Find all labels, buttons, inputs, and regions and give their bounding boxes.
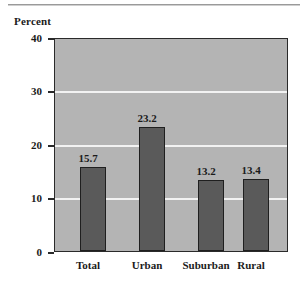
bar-total[interactable] [80, 167, 106, 251]
y-tick-label-0: 0 [0, 246, 42, 258]
y-tick-label-30: 30 [0, 85, 42, 97]
bar-rural[interactable] [243, 179, 269, 251]
y-tick-label-20: 20 [0, 139, 42, 151]
value-label-rural: 13.4 [225, 164, 277, 176]
gridline-20 [55, 145, 287, 147]
bar-urban[interactable] [139, 127, 165, 251]
x-axis-label-urban: Urban [121, 259, 173, 271]
bar-chart-figure: Percent 40 30 20 10 0 15.7 23.2 13.2 13.… [0, 0, 307, 290]
value-label-urban: 23.2 [121, 112, 173, 124]
top-divider-rule-shadow [8, 5, 300, 6]
value-label-total: 15.7 [62, 152, 114, 164]
x-axis-label-rural: Rural [225, 259, 277, 271]
y-tick-mark-0 [48, 252, 54, 254]
gridline-30 [55, 91, 287, 93]
plot-area [54, 38, 288, 252]
y-tick-label-10: 10 [0, 192, 42, 204]
bar-suburban[interactable] [198, 180, 224, 251]
y-tick-label-40: 40 [0, 32, 42, 44]
x-axis-label-total: Total [62, 259, 114, 271]
y-axis-title: Percent [14, 15, 51, 27]
